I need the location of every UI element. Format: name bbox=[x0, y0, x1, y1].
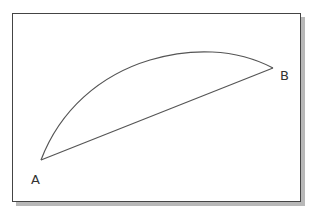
point-b-label: B bbox=[280, 68, 289, 83]
arc-a-to-b bbox=[41, 52, 273, 160]
point-a-label: A bbox=[31, 172, 40, 187]
diagram-canvas: A B bbox=[0, 0, 312, 211]
chord-a-to-b bbox=[41, 68, 273, 160]
